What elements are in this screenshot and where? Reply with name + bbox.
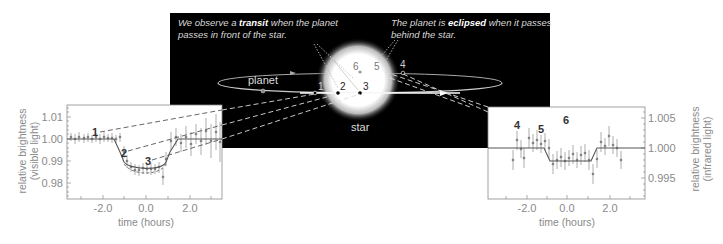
planet-label: planet: [248, 74, 278, 86]
planet-marker: [261, 89, 265, 93]
left-ytick-3: 0.99: [42, 155, 63, 167]
star: [316, 38, 400, 122]
right-ylabel-2: (infrared light): [701, 117, 713, 182]
left-plot-frame: [67, 105, 222, 199]
left-xlabel: time (hours): [118, 216, 174, 228]
left-marker-2: 2: [121, 147, 127, 159]
left-xtick-3: 2.0: [182, 202, 197, 214]
left-marker-1: 1: [92, 126, 98, 138]
left-ytick-2: 1.00: [42, 133, 63, 145]
left-ytick-1: 1.01: [42, 111, 63, 123]
left-plot: 1.01 1.00 0.99 0.98 -2.0 0.0 2.0 time (h…: [16, 105, 222, 228]
right-plot: 1.005 1.000 0.995 -2.0 0.0 2.0 time (hou…: [488, 106, 713, 228]
right-ytick-3: 0.995: [648, 172, 676, 184]
position-3-label: 3: [363, 81, 369, 92]
left-xtick-2: 0.0: [138, 202, 153, 214]
right-ytick-1: 1.005: [648, 112, 676, 124]
left-xtick-1: -2.0: [94, 202, 113, 214]
transit-eclipse-diagram: We observe a transit when the planet pas…: [0, 0, 723, 244]
position-1-marker: [313, 91, 317, 95]
right-xtick-1: -2.0: [518, 202, 537, 214]
eclipse-caption: The planet is eclipsed when it passes: [391, 17, 552, 28]
position-6-marker: [358, 70, 361, 73]
left-ylabel-1: relative brightness: [16, 108, 28, 193]
left-ytick-4: 0.98: [42, 177, 63, 189]
star-label: star: [351, 121, 370, 133]
left-marker-3: 3: [145, 155, 151, 167]
position-6-label: 6: [353, 61, 359, 72]
right-marker-6: 6: [563, 114, 569, 126]
right-marker-5: 5: [538, 123, 544, 135]
left-ylabel-2: (visible light): [28, 122, 40, 180]
transit-caption: We observe a transit when the planet: [178, 17, 338, 28]
position-5-label: 5: [374, 61, 380, 72]
position-1-label: 1: [318, 81, 324, 92]
position-2-label: 2: [340, 81, 346, 92]
right-ylabel-1: relative brightness: [689, 106, 701, 191]
right-xtick-3: 2.0: [602, 202, 617, 214]
transit-caption-line2: passes in front of the star.: [177, 29, 287, 40]
right-marker-4: 4: [514, 119, 521, 131]
position-4-label: 4: [400, 59, 406, 70]
right-xtick-2: 0.0: [559, 202, 574, 214]
right-xlabel: time (hours): [539, 216, 595, 228]
eclipse-caption-line2: behind the star.: [391, 29, 456, 40]
right-ytick-2: 1.000: [648, 142, 676, 154]
